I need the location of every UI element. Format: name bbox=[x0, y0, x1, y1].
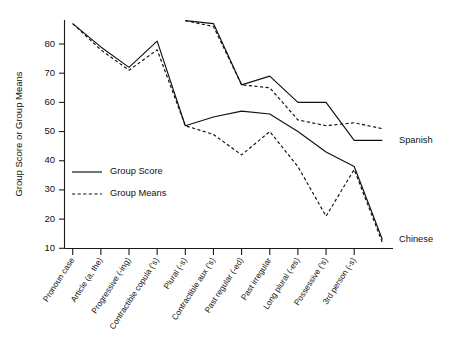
data-series-layer bbox=[73, 21, 383, 243]
x-tick-label: Plural (-s) bbox=[162, 256, 189, 291]
y-tick-label: 70 bbox=[44, 67, 55, 78]
y-tick-label: 40 bbox=[44, 154, 55, 165]
legend-label: Group Score bbox=[110, 166, 163, 176]
y-axis: 1020304050607080 Group Score or Group Me… bbox=[13, 20, 65, 253]
y-tick-label: 80 bbox=[44, 38, 55, 49]
line-chart: 1020304050607080 Group Score or Group Me… bbox=[0, 0, 449, 351]
x-tick-label: Contractible copula ('s) bbox=[108, 256, 161, 331]
y-tick-label: 20 bbox=[44, 213, 55, 224]
y-tick-labels: 1020304050607080 bbox=[44, 38, 55, 253]
y-tick-label: 10 bbox=[44, 242, 55, 253]
x-axis: Pronoun caseArticle (a, the)Progressive … bbox=[41, 249, 393, 332]
x-tick-labels: Pronoun caseArticle (a, the)Progressive … bbox=[41, 256, 358, 331]
group-label: Chinese bbox=[399, 234, 433, 244]
series-line bbox=[185, 21, 382, 129]
y-tick-label: 50 bbox=[44, 125, 55, 136]
legend-label: Group Means bbox=[110, 188, 167, 198]
chart-legend: Group ScoreGroup Means bbox=[72, 166, 167, 198]
chart-container: 1020304050607080 Group Score or Group Me… bbox=[0, 0, 449, 351]
y-tick-label: 60 bbox=[44, 96, 55, 107]
group-label: Spanish bbox=[399, 135, 433, 145]
group-annotations: SpanishChinese bbox=[399, 135, 433, 244]
x-tick-marks bbox=[73, 249, 355, 256]
y-axis-title: Group Score or Group Means bbox=[13, 71, 24, 196]
y-tick-label: 30 bbox=[44, 183, 55, 194]
series-line bbox=[73, 24, 383, 240]
y-tick-marks bbox=[59, 44, 65, 248]
